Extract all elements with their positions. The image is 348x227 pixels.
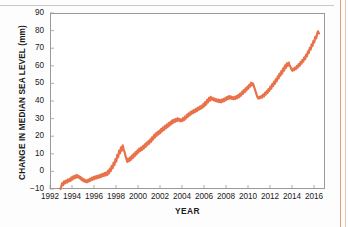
- data-line-sea-level: [60, 31, 319, 189]
- y-tick-label: 30: [14, 115, 44, 123]
- axis-ticks: [50, 13, 314, 189]
- y-tick-label: 10: [14, 150, 44, 158]
- page-right-margin-rule: [340, 0, 341, 227]
- y-tick-label: 50: [14, 79, 44, 87]
- y-tick-label: 90: [14, 9, 44, 17]
- y-tick-label: 60: [14, 62, 44, 70]
- y-tick-label: 0: [14, 167, 44, 175]
- x-tick-label: 2016: [294, 192, 334, 201]
- y-tick-label: 70: [14, 44, 44, 52]
- y-tick-label: 40: [14, 97, 44, 105]
- y-tick-label: 20: [14, 132, 44, 140]
- sea-level-chart: CHANGE IN MEDIAN SEA LEVEL (mm) YEAR −10…: [0, 6, 334, 227]
- figure-page: CHANGE IN MEDIAN SEA LEVEL (mm) YEAR −10…: [0, 0, 348, 227]
- y-tick-label: 80: [14, 27, 44, 35]
- page-right-margin-rule-secondary: [345, 0, 346, 227]
